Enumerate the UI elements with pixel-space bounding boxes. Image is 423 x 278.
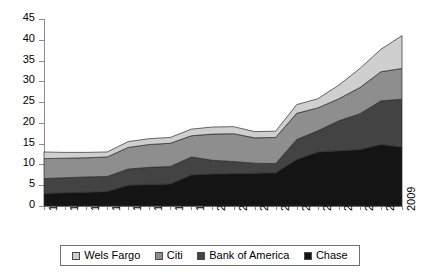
legend-item-label: Chase: [316, 250, 348, 261]
legend-item[interactable]: Citi: [155, 250, 183, 261]
stacked-area-chart: 051015202530354045 199219931994199519961…: [0, 0, 423, 278]
legend-item[interactable]: Chase: [304, 250, 348, 261]
area-series-group: [0, 0, 423, 278]
legend-swatch-wels-fargo: [72, 252, 80, 260]
legend-swatch-citi: [155, 252, 163, 260]
legend-item-label: Bank of America: [209, 250, 289, 261]
legend-item[interactable]: Wels Fargo: [72, 250, 140, 261]
legend-swatch-bank-of-america: [197, 252, 205, 260]
chart-legend: Wels FargoCitiBank of AmericaChase: [60, 245, 360, 266]
legend-swatch-chase: [304, 252, 312, 260]
legend-item-label: Wels Fargo: [84, 250, 140, 261]
legend-item-label: Citi: [167, 250, 183, 261]
legend-item[interactable]: Bank of America: [197, 250, 289, 261]
